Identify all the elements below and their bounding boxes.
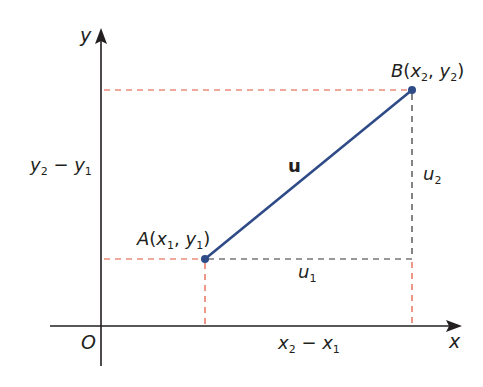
point-a-x: x: [156, 228, 167, 249]
point-b-x-sub: 2: [421, 71, 428, 84]
u2-base: u: [423, 163, 434, 184]
vector-u-label: u: [288, 157, 301, 175]
diagram-canvas: [0, 0, 483, 387]
dy-b-sub: 1: [85, 165, 92, 178]
dx-a: x: [278, 332, 289, 353]
dx-b-sub: 1: [333, 343, 340, 356]
dy-a-sub: 2: [41, 165, 48, 178]
dx-op: −: [296, 332, 323, 353]
dy-a: y: [30, 154, 41, 175]
point-b-x: x: [410, 60, 421, 81]
point-a-y: y: [185, 228, 196, 249]
u1-base: u: [298, 261, 309, 282]
point-b-label: B(x2, y2): [391, 62, 464, 83]
y-axis-label: y: [80, 26, 91, 45]
point-a: [201, 255, 209, 263]
dy-op: −: [48, 154, 75, 175]
point-b-name: B: [391, 60, 403, 81]
dx-label: x2 − x1: [278, 334, 340, 355]
component-u2-label: u2: [423, 165, 441, 186]
point-a-label: A(x1, y1): [137, 230, 210, 251]
dy-b: y: [74, 154, 85, 175]
point-a-x-sub: 1: [167, 239, 174, 252]
point-b: [408, 86, 416, 94]
comma: ,: [174, 228, 185, 249]
point-b-y: y: [440, 60, 451, 81]
x-axis-label: x: [449, 332, 460, 351]
u2-sub: 2: [434, 174, 441, 187]
dy-label: y2 − y1: [30, 156, 92, 177]
u1-sub: 1: [309, 272, 316, 285]
dx-b: x: [322, 332, 333, 353]
paren-close: ): [203, 228, 210, 249]
origin-label: O: [81, 333, 96, 352]
dx-a-sub: 2: [289, 343, 296, 356]
point-a-name: A: [137, 228, 149, 249]
comma: ,: [428, 60, 439, 81]
component-u1-label: u1: [298, 263, 316, 284]
paren-close: ): [457, 60, 464, 81]
vector-u: [205, 90, 412, 259]
